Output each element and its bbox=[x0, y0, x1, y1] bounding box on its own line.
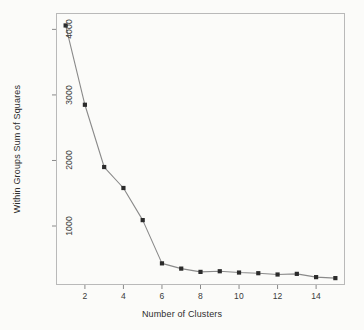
chart-screenshot: 2468101214 1000200030004000 Number of Cl… bbox=[0, 0, 364, 330]
data-line bbox=[66, 25, 336, 278]
data-point-marker bbox=[179, 267, 183, 271]
data-point-marker bbox=[218, 269, 222, 273]
plot-data-layer bbox=[0, 0, 364, 330]
y-axis-ticks bbox=[52, 29, 56, 226]
data-point-marker bbox=[198, 270, 202, 274]
data-point-marker bbox=[275, 272, 279, 276]
y-tick-label: 3000 bbox=[64, 95, 74, 115]
y-axis-title: Within Groups Sum of Squares bbox=[12, 85, 22, 213]
x-tick-label: 12 bbox=[273, 291, 283, 301]
x-tick-label: 2 bbox=[82, 291, 87, 301]
x-tick-label: 4 bbox=[121, 291, 126, 301]
y-tick-label: 4000 bbox=[64, 29, 74, 49]
y-tick-label: 2000 bbox=[64, 160, 74, 180]
data-point-marker bbox=[102, 165, 106, 169]
data-point-marker bbox=[83, 103, 87, 107]
data-point-marker bbox=[256, 271, 260, 275]
y-tick-label: 1000 bbox=[64, 226, 74, 246]
data-markers bbox=[64, 23, 338, 280]
data-point-marker bbox=[141, 218, 145, 222]
x-axis-ticks bbox=[85, 285, 316, 289]
data-point-marker bbox=[121, 186, 125, 190]
data-point-marker bbox=[160, 261, 164, 265]
data-point-marker bbox=[237, 270, 241, 274]
data-point-marker bbox=[314, 275, 318, 279]
x-tick-label: 6 bbox=[159, 291, 164, 301]
data-point-marker bbox=[295, 272, 299, 276]
x-tick-label: 14 bbox=[311, 291, 321, 301]
x-tick-label: 8 bbox=[198, 291, 203, 301]
x-tick-label: 10 bbox=[234, 291, 244, 301]
data-point-marker bbox=[333, 276, 337, 280]
x-axis-title: Number of Clusters bbox=[0, 309, 364, 319]
